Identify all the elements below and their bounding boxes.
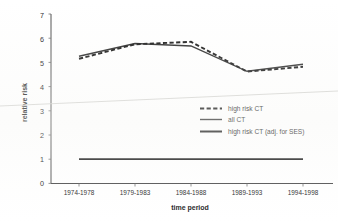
x-category-label-1: 1979-1983 (120, 189, 151, 196)
y-tick-label-6: 6 (40, 35, 44, 44)
y-tick-label-1: 1 (40, 155, 44, 164)
y-tick-label-2: 2 (40, 131, 44, 140)
x-category-label-2: 1984-1988 (176, 189, 207, 196)
y-tick-label-4: 4 (40, 83, 44, 92)
y-tick-label-3: 3 (40, 107, 44, 116)
legend-label-high-risk-ct-adj: high risk CT (adj. for SES) (228, 128, 304, 136)
series-line-all-ct (79, 44, 303, 72)
chart-canvas: relative risk 7 6 5 4 3 2 1 0 1974-1978 … (0, 0, 338, 222)
x-category-label-3: 1989-1993 (232, 189, 263, 196)
chart-legend: high risk CT all CT high risk CT (adj. f… (200, 105, 304, 136)
y-axis-title: relative risk (21, 83, 28, 122)
chart-figure: relative risk 7 6 5 4 3 2 1 0 1974-1978 … (0, 0, 338, 222)
y-tick-label-0: 0 (40, 179, 44, 188)
x-category-label-0: 1974-1978 (64, 189, 95, 196)
x-category-label-4: 1994-1998 (288, 189, 319, 196)
legend-label-all-ct: all CT (228, 116, 245, 123)
y-tick-label-5: 5 (40, 59, 44, 68)
legend-label-high-risk-ct: high risk CT (228, 105, 263, 113)
x-axis-title: time period (171, 204, 209, 212)
y-tick-label-7: 7 (40, 11, 44, 20)
